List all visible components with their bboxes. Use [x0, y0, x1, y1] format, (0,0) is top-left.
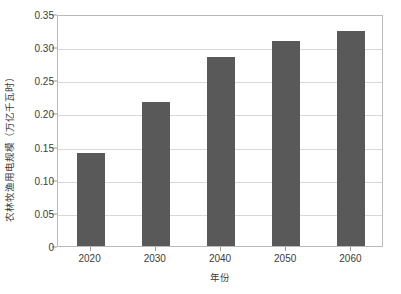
x-axis-tick-label: 2040 — [190, 253, 250, 264]
bar — [272, 41, 300, 246]
y-axis-tick-label: 0.25 — [10, 76, 54, 87]
bar — [207, 57, 235, 246]
x-axis-tick-mark — [155, 247, 156, 251]
y-axis-tick-label: 0.10 — [10, 175, 54, 186]
x-axis-tick-label: 2050 — [255, 253, 315, 264]
bar — [77, 153, 105, 246]
y-axis-tick-label: 0.15 — [10, 142, 54, 153]
x-axis-tick-label: 2060 — [320, 253, 380, 264]
x-axis-tick-mark — [285, 247, 286, 251]
bar — [142, 102, 170, 247]
bar-chart-figure: 农林牧渔用电规模（万亿千瓦时） 00.050.100.150.200.250.3… — [0, 0, 401, 294]
plot-area — [57, 15, 383, 247]
y-axis-tick-label: 0.20 — [10, 109, 54, 120]
y-axis-tick-label: 0.05 — [10, 208, 54, 219]
y-axis-tick-label: 0.35 — [10, 10, 54, 21]
x-axis-title: 年份 — [57, 270, 383, 284]
y-axis-tick-label: 0.30 — [10, 43, 54, 54]
bar — [337, 31, 365, 246]
y-axis-tick-label: 0 — [10, 242, 54, 253]
x-axis-tick-mark — [220, 247, 221, 251]
x-axis-tick-label: 2020 — [60, 253, 120, 264]
gridline — [58, 49, 382, 50]
x-axis-tick-mark — [90, 247, 91, 251]
x-axis-tick-mark — [350, 247, 351, 251]
x-axis-tick-label: 2030 — [125, 253, 185, 264]
